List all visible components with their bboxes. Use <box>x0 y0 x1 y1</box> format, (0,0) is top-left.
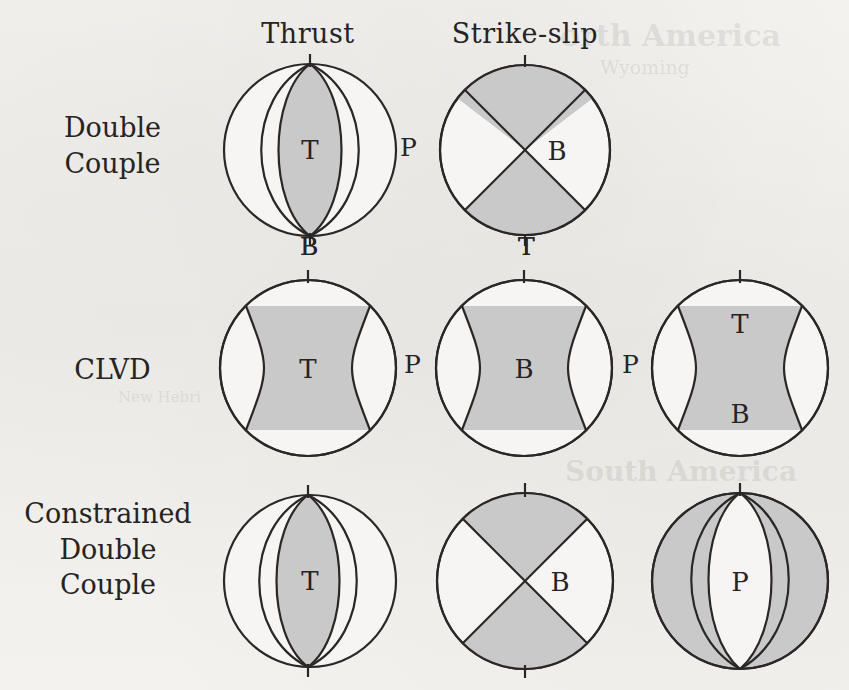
beachball-dc-strikeslip-center-label: B <box>547 136 566 166</box>
column-header-strike-slip: Strike-slip <box>415 18 635 49</box>
beachball-clvd-thrust: T <box>212 275 412 475</box>
row-label-cdc-line1: Constrained <box>8 496 208 532</box>
beachball-dc-thrust-center-label: T <box>301 135 319 165</box>
row-label-double-couple-line2: Couple <box>20 146 205 182</box>
beachball-clvd-thrust-center-label: T <box>299 354 317 384</box>
row-label-clvd: CLVD <box>20 352 205 388</box>
beachball-cdc-strikeslip: B <box>430 485 630 685</box>
label-clvd-strikeslip-P: P <box>622 352 639 377</box>
label-clvd-thrust-B-above: B <box>300 234 318 259</box>
beachball-dc-strikeslip: B <box>430 50 630 250</box>
beachball-clvd-third-center-label-bottom: B <box>730 399 749 429</box>
focal-mechanism-figure: Thrust Strike-slip Double Couple CLVD Co… <box>0 0 849 690</box>
beachball-clvd-third-center-label-top: T <box>731 309 749 339</box>
row-label-cdc-line2: Double <box>8 532 208 568</box>
beachball-cdc-third: P <box>648 485 848 685</box>
beachball-cdc-thrust-center-label: T <box>301 566 319 596</box>
label-dc-thrust-P: P <box>400 135 417 160</box>
beachball-cdc-strikeslip-center-label: B <box>550 567 569 597</box>
column-header-thrust: Thrust <box>208 18 408 49</box>
beachball-dc-thrust: T <box>212 50 412 250</box>
label-clvd-strikeslip-T-above: T <box>518 234 535 259</box>
row-label-constrained-double-couple: Constrained Double Couple <box>8 496 208 603</box>
label-clvd-thrust-P: P <box>404 352 421 377</box>
row-label-cdc-line3: Couple <box>8 567 208 603</box>
beachball-clvd-strikeslip-center-label: B <box>514 354 533 384</box>
beachball-cdc-thrust: T <box>212 485 412 685</box>
beachball-clvd-strikeslip: B <box>430 275 630 475</box>
beachball-cdc-third-center-label: P <box>731 567 749 597</box>
row-label-double-couple-line1: Double <box>20 110 205 146</box>
row-label-double-couple: Double Couple <box>20 110 205 181</box>
beachball-clvd-third: T B <box>648 275 848 475</box>
